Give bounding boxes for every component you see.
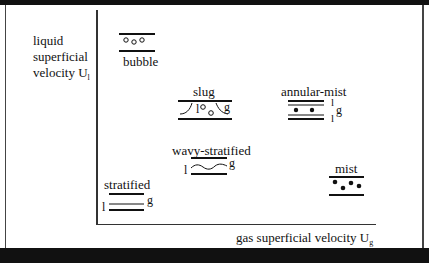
annular-mist-gas-label: g	[336, 102, 342, 119]
x-axis-label-text: gas superficial velocity U	[236, 230, 369, 245]
x-axis-label: gas superficial velocity Ug	[236, 229, 373, 246]
y-axis-label-line1: liquid	[33, 32, 63, 49]
annular-mist-flow-icon	[288, 100, 328, 126]
stratified-gas-label: g	[147, 192, 153, 209]
stratified-label: stratified	[104, 176, 150, 193]
x-axis-subscript: g	[369, 238, 373, 247]
right-border	[422, 5, 424, 248]
mist-label: mist	[335, 160, 357, 177]
x-axis	[96, 224, 376, 225]
y-axis-label-text: velocity U	[33, 65, 88, 80]
top-border	[0, 0, 429, 5]
wavy-stratified-liquid-label: l	[184, 162, 187, 179]
annular-mist-liquid-label-top: l	[331, 94, 334, 111]
slug-liquid-label: l	[196, 101, 199, 118]
wavy-stratified-gas-label: g	[229, 155, 235, 172]
mist-flow-icon	[329, 176, 369, 200]
slug-label: slug	[193, 83, 215, 100]
y-axis-label-line3: velocity Ul	[33, 64, 90, 81]
annular-mist-liquid-label-bottom: l	[331, 110, 334, 127]
stratified-liquid-label: l	[102, 199, 105, 216]
y-axis-subscript: l	[88, 73, 90, 82]
left-border	[5, 5, 6, 248]
bubble-label: bubble	[123, 53, 158, 70]
slug-gas-label: g	[224, 99, 230, 116]
bottom-border	[0, 248, 429, 263]
annular-mist-label: annular-mist	[281, 83, 346, 100]
stratified-flow-icon	[109, 193, 149, 215]
y-axis	[96, 10, 98, 225]
y-axis-label-line2: superficial	[33, 48, 88, 65]
wavy-stratified-flow-icon	[191, 157, 231, 183]
